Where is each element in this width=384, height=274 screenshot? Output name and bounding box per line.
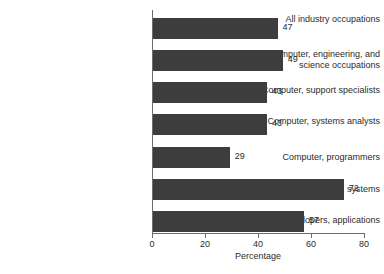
bar [153, 211, 304, 232]
x-tick-label: 40 [238, 239, 278, 250]
bar-value-label: 43 [272, 118, 282, 129]
bar-value-label: 29 [235, 151, 245, 162]
bar-value-label: 49 [288, 54, 298, 65]
x-tick-mark [258, 233, 259, 238]
x-tick-mark [205, 233, 206, 238]
bar-value-label: 72 [349, 183, 359, 194]
x-tick-label: 60 [291, 239, 331, 250]
x-tick-mark [152, 233, 153, 238]
horizontal-bar-chart: All industry occupations Computer, engin… [0, 0, 384, 274]
x-tick-mark [311, 233, 312, 238]
bar [153, 114, 267, 135]
x-axis-title: Percentage [152, 251, 364, 262]
bar [153, 18, 278, 39]
bar [153, 179, 344, 200]
bar-value-label: 57 [309, 215, 319, 226]
x-tick-label: 80 [344, 239, 384, 250]
x-tick-label: 20 [185, 239, 225, 250]
bar-value-label: 43 [272, 86, 282, 97]
bar [153, 50, 283, 71]
bar [153, 82, 267, 103]
plot-area: 0 20 40 60 80 47 49 43 43 29 72 [152, 10, 364, 233]
bar [153, 147, 230, 168]
x-tick-mark [364, 233, 365, 238]
x-tick-label: 0 [132, 239, 172, 250]
bar-value-label: 47 [283, 22, 293, 33]
